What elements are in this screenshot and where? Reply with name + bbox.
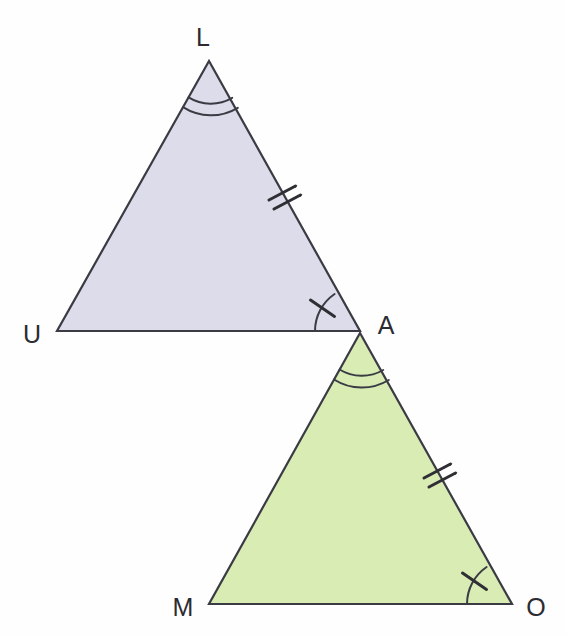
- vertex-label-L: L: [196, 23, 210, 51]
- vertex-label-O: O: [526, 593, 545, 621]
- vertex-label-A: A: [378, 311, 395, 339]
- triangle-AMO-fill: [209, 333, 512, 604]
- triangle-LUA-fill: [57, 61, 360, 331]
- triangle-AMO: M O: [173, 333, 546, 621]
- triangle-LUA: L U A: [23, 23, 395, 348]
- vertex-label-M: M: [173, 593, 194, 621]
- vertex-label-U: U: [23, 320, 41, 348]
- geometry-figure: so that ange ngles are congruent L: [0, 0, 566, 635]
- geometry-canvas: L U A M O: [0, 0, 566, 635]
